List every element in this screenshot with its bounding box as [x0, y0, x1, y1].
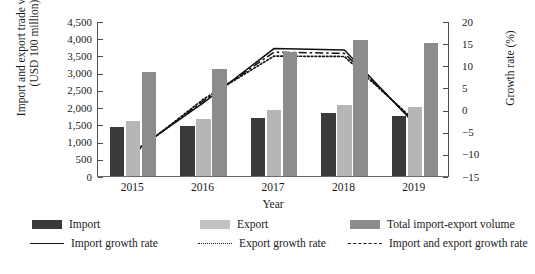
- x-tick-label: 2017: [238, 181, 308, 193]
- bar-import: [110, 127, 125, 176]
- x-axis-ticks: 20152016201720182019: [97, 181, 449, 197]
- bar-total: [424, 43, 439, 176]
- legend-item-swatch-light[interactable]: Export: [200, 218, 268, 230]
- bar-export: [196, 119, 211, 176]
- legend-item-swatch-dark[interactable]: Import: [32, 218, 100, 230]
- legend-item-line-dotted[interactable]: Export growth rate: [198, 237, 326, 249]
- y-tick-label-left: 2,000: [44, 103, 92, 114]
- legend-line-icon: [348, 239, 382, 248]
- legend-swatch-icon: [32, 220, 62, 229]
- legend-line-stroke: [30, 243, 64, 244]
- x-tick-label: 2019: [379, 181, 449, 193]
- plot-area: [97, 22, 449, 177]
- y-tick-label-right: 15: [462, 39, 496, 50]
- legend-row-lines: Import growth rateExport growth rateImpo…: [32, 237, 512, 256]
- y-tick-label-right: 20: [462, 17, 496, 28]
- chart-legend: ImportExportTotal import-export volume I…: [32, 218, 512, 256]
- legend-line-icon: [30, 239, 64, 248]
- y-tick-label-left: 2,500: [44, 85, 92, 96]
- legend-item-line-dash-dot[interactable]: Import and export growth rate: [348, 237, 528, 249]
- y-tick-label-left: 1,000: [44, 137, 92, 148]
- bar-group: [98, 22, 168, 176]
- legend-label: Import: [69, 218, 100, 230]
- legend-line-stroke: [198, 243, 232, 244]
- bar-export: [267, 110, 282, 176]
- x-axis-title: Year: [97, 198, 449, 210]
- legend-item-line-solid[interactable]: Import growth rate: [30, 237, 158, 249]
- y-axis-right-title: Growth rate (%): [504, 13, 516, 123]
- legend-line-icon: [198, 239, 232, 248]
- legend-label: Export growth rate: [239, 237, 326, 249]
- legend-swatch-icon: [200, 220, 230, 229]
- bar-group: [239, 22, 309, 176]
- y-tick-label-left: 3,500: [44, 51, 92, 62]
- y-axis-right-ticks: −15−10−505101520: [462, 14, 496, 184]
- chart-figure: Import and export trade volume (USD 100 …: [0, 0, 535, 274]
- y-tick-label-right: 10: [462, 61, 496, 72]
- tick-mark-right: [443, 177, 448, 178]
- legend-row-bars: ImportExportTotal import-export volume: [32, 218, 512, 237]
- y-tick-label-left: 500: [44, 154, 92, 165]
- y-tick-label-right: −15: [462, 172, 496, 183]
- y-tick-label-left: 4,000: [44, 34, 92, 45]
- y-tick-label-left: 0: [44, 172, 92, 183]
- bar-total: [212, 69, 227, 176]
- legend-label: Total import-export volume: [387, 218, 515, 230]
- bar-group: [380, 22, 450, 176]
- tick-mark-left: [98, 177, 103, 178]
- y-axis-left-title: Import and export trade volume (USD 100 …: [15, 0, 41, 123]
- bar-import: [392, 116, 407, 176]
- bar-import: [251, 118, 266, 176]
- bar-total: [142, 72, 157, 176]
- y-tick-label-right: 5: [462, 83, 496, 94]
- y-tick-label-right: −5: [462, 127, 496, 138]
- y-tick-label-left: 1,500: [44, 120, 92, 131]
- bar-export: [408, 107, 423, 176]
- x-tick-label: 2016: [168, 181, 238, 193]
- bar-total: [283, 52, 298, 176]
- legend-label: Export: [237, 218, 268, 230]
- bar-import: [180, 126, 195, 176]
- bar-total: [353, 40, 368, 176]
- x-tick-label: 2018: [308, 181, 378, 193]
- y-tick-label-left: 4,500: [44, 17, 92, 28]
- bar-import: [321, 113, 336, 176]
- legend-swatch-icon: [350, 220, 380, 229]
- y-tick-label-right: 0: [462, 105, 496, 116]
- legend-item-swatch-mid[interactable]: Total import-export volume: [350, 218, 515, 230]
- bar-group: [168, 22, 238, 176]
- bar-export: [337, 105, 352, 176]
- y-tick-label-right: −10: [462, 149, 496, 160]
- legend-label: Import growth rate: [71, 237, 158, 249]
- legend-line-stroke: [348, 243, 382, 244]
- legend-label: Import and export growth rate: [389, 237, 528, 249]
- x-tick-label: 2015: [97, 181, 167, 193]
- bar-export: [126, 121, 141, 176]
- y-tick-label-left: 3,000: [44, 68, 92, 79]
- y-axis-left-ticks: 05001,0001,5002,0002,5003,0003,5004,0004…: [44, 14, 92, 184]
- bar-group: [309, 22, 379, 176]
